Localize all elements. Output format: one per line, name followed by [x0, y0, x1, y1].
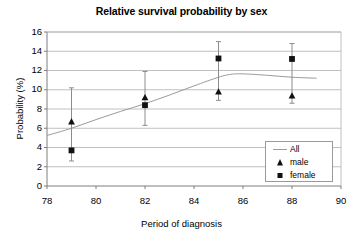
legend-label-all: All [290, 144, 299, 155]
series-all-curve [47, 74, 317, 136]
legend-item-female: female [266, 169, 334, 182]
legend: All male female [265, 141, 333, 182]
square-icon [272, 169, 288, 182]
line-icon [272, 143, 288, 156]
triangle-icon [272, 156, 288, 169]
chart-container: Relative survival probability by sex Pro… [0, 0, 363, 238]
series-male-markers [68, 88, 295, 124]
legend-label-male: male [290, 157, 308, 168]
plot-area [0, 0, 363, 238]
legend-item-all: All [266, 143, 334, 156]
legend-item-male: male [266, 156, 334, 169]
error-bars [69, 42, 295, 161]
legend-label-female: female [290, 170, 316, 181]
